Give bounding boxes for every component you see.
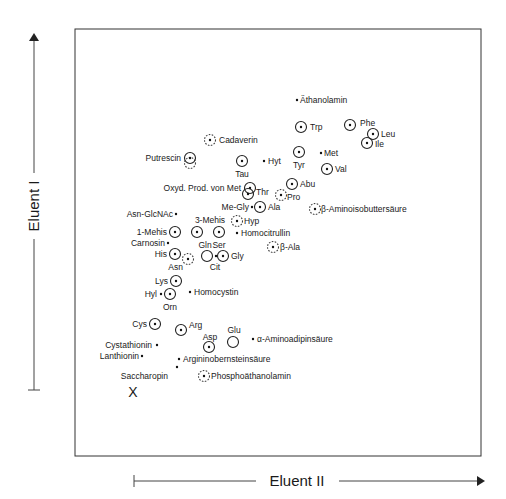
spot-label: Pro <box>287 192 301 202</box>
spot-label: Äthanolamin <box>300 95 348 105</box>
spot-label: α-Aminoadipinsäure <box>257 334 333 344</box>
spot-tyr: Tyr <box>293 147 305 171</box>
spot-label: Ala <box>268 202 281 212</box>
spot-a-thanolamin: Äthanolamin <box>296 95 348 105</box>
spot-label: Hyp <box>244 216 259 226</box>
dot-icon <box>189 291 191 293</box>
spot-his: His <box>155 249 181 260</box>
spot-label: Met <box>324 148 339 158</box>
spot-label: β-Ala <box>280 242 300 252</box>
dot-icon <box>175 213 177 215</box>
spot-oxyd-prod-von-met: Oxyd. Prod. von Met <box>164 183 256 194</box>
dot-icon <box>167 242 169 244</box>
spot-label: Hyt <box>268 156 281 166</box>
spot-label: Ser <box>212 240 225 250</box>
spot-aminoadipinsa-ure: α-Aminoadipinsäure <box>252 334 333 344</box>
spot-1-mehis: 1-Mehis <box>137 227 181 238</box>
spot-ala: β-Ala <box>268 242 301 253</box>
dot-icon <box>169 293 171 295</box>
spot-met: Met <box>320 148 339 158</box>
dot-icon <box>320 152 322 154</box>
dot-icon <box>175 280 177 282</box>
spot-hyl: Hyl <box>145 289 162 299</box>
spot-putrescin: Putrescin <box>146 153 196 164</box>
dot-icon <box>180 329 182 331</box>
dot-icon <box>178 358 180 360</box>
dot-icon <box>176 366 178 368</box>
dot-icon <box>247 193 249 195</box>
spot-pro: Pro <box>276 190 301 203</box>
spot-label: Abu <box>300 179 315 189</box>
spot-label: Thr <box>256 187 269 197</box>
spot-label: Glu <box>227 325 241 335</box>
up-arrow-icon <box>29 33 39 41</box>
spot-lanthionin: Lanthionin <box>100 351 143 361</box>
dot-icon <box>349 124 351 126</box>
spot-label: Lys <box>155 276 168 286</box>
spot-label: Tyr <box>293 160 305 170</box>
spot-label: Gln <box>198 240 212 250</box>
spot-label: Arg <box>189 320 203 330</box>
dot-icon <box>326 168 328 170</box>
dot-icon <box>196 231 198 233</box>
dot-icon <box>187 258 189 260</box>
spot-lys: Lys <box>155 276 181 287</box>
spot-trp: Trp <box>296 122 323 133</box>
spot-label: Ile <box>375 139 384 149</box>
spot-cadaverin: Cadaverin <box>205 135 259 146</box>
origin-marker: X <box>128 384 138 400</box>
spot-carnosin: Carnosin <box>131 238 169 248</box>
dot-icon <box>203 375 205 377</box>
dot-icon <box>236 220 238 222</box>
spot-label: Leu <box>381 129 395 139</box>
open-circle-icon <box>202 251 213 262</box>
spot-ser: Ser <box>212 227 225 251</box>
spot-phosphoa-thanolamin: Phosphoäthanolamin <box>199 371 292 382</box>
spot-label: Cadaverin <box>219 135 258 145</box>
dot-icon <box>141 355 143 357</box>
dot-icon <box>366 142 368 144</box>
spot-homocitrullin: Homocitrullin <box>236 228 291 238</box>
dot-icon <box>215 255 217 257</box>
spot-label: Asn-GlcNAc <box>127 209 174 219</box>
spot-arg: Arg <box>176 320 203 336</box>
spot-gly: Gly <box>218 251 245 262</box>
dot-icon <box>241 160 243 162</box>
spot-label: Cit <box>210 262 221 272</box>
spot-label: Me-Gly <box>222 202 250 212</box>
spots-layer: ÄthanolaminTrpPheLeuIleCadaverinPutresci… <box>100 95 407 382</box>
dot-icon <box>208 346 210 348</box>
dot-icon <box>263 160 265 162</box>
dot-icon <box>156 344 158 346</box>
dot-icon <box>300 126 302 128</box>
spot-hyp: Hyp <box>232 216 260 227</box>
spot-label: Tau <box>235 169 249 179</box>
spot-thr: Thr <box>243 187 269 200</box>
dot-icon <box>174 231 176 233</box>
spot-leu: Leu <box>368 129 396 140</box>
dot-icon <box>298 151 300 153</box>
dot-icon <box>174 253 176 255</box>
spot-tau: Tau <box>235 156 249 180</box>
right-arrow-icon <box>477 476 485 486</box>
spot-argininobernsteinsa-ure: Argininobernsteinsäure <box>178 354 271 364</box>
spot-label: Homocystin <box>194 287 239 297</box>
spot-label: Asn <box>168 262 183 272</box>
spot-label: Phosphoäthanolamin <box>211 371 291 381</box>
spot-label: 3-Mehis <box>195 215 225 225</box>
dot-icon <box>314 208 316 210</box>
chromatogram-diagram: Eluent I Eluent II X ÄthanolaminTrpPheLe… <box>0 0 506 499</box>
spot-gln: Gln <box>198 240 212 262</box>
spot-asn: Asn <box>168 254 193 273</box>
spot-label: Cystathionin <box>105 340 152 350</box>
dot-icon <box>154 323 156 325</box>
x-axis-label: Eluent II <box>269 472 324 489</box>
dot-icon <box>222 255 224 257</box>
dot-icon <box>160 293 162 295</box>
spot-label: Phe <box>360 118 375 128</box>
dot-icon <box>259 206 261 208</box>
dot-icon <box>252 338 254 340</box>
dot-icon <box>372 133 374 135</box>
open-circle-icon <box>228 337 239 348</box>
spot-cit: Cit <box>210 255 221 272</box>
